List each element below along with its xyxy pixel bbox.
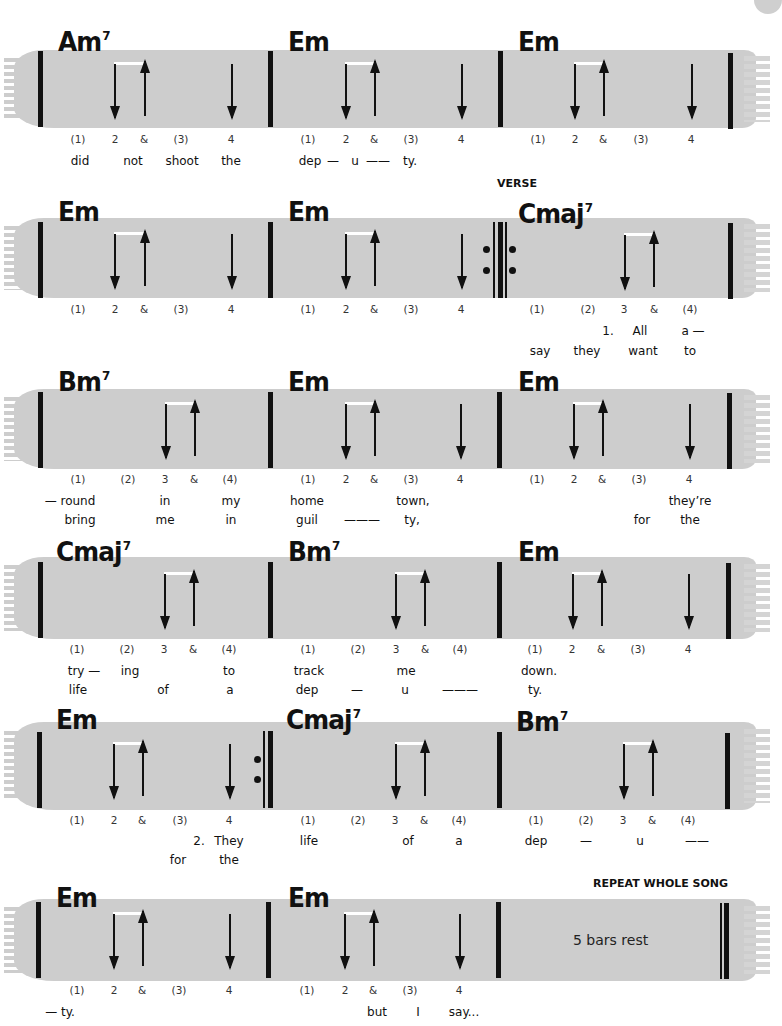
lyric-word: dep — [296, 683, 319, 697]
end-repeat-barline — [268, 731, 273, 808]
up-stroke-arrow-icon — [374, 61, 376, 116]
end-barline — [728, 53, 733, 129]
lyric-word: the — [680, 513, 700, 527]
beat-count: 2 — [569, 643, 576, 655]
staff-band — [14, 389, 756, 469]
down-stroke-arrow-icon — [345, 404, 347, 458]
beat-count: 2 — [343, 473, 350, 485]
down-stroke-arrow-icon — [624, 235, 626, 289]
lyric-word: bring — [64, 513, 95, 527]
down-stroke-arrow-icon — [574, 64, 576, 118]
up-stroke-arrow-icon — [601, 571, 603, 626]
barline — [497, 562, 502, 638]
staff-band — [14, 218, 756, 298]
down-stroke-arrow-icon — [345, 234, 347, 288]
beat-count: 4 — [226, 814, 233, 826]
up-stroke-arrow-icon — [142, 911, 144, 966]
beat-count: 4 — [228, 303, 235, 315]
beat-count: (1) — [301, 473, 316, 485]
rest-instruction: 5 bars rest — [573, 932, 648, 948]
beat-count: 3 — [393, 643, 400, 655]
down-stroke-arrow-icon — [395, 574, 397, 628]
beat-count: (1) — [300, 984, 315, 996]
repeat-dot — [483, 267, 490, 274]
down-stroke-arrow-icon — [460, 404, 462, 458]
chord-symbol: Em — [518, 28, 559, 55]
barline — [268, 392, 273, 468]
beat-count: 4 — [458, 133, 465, 145]
up-stroke-arrow-icon — [194, 401, 196, 456]
beat-count: (1) — [71, 133, 86, 145]
down-stroke-arrow-icon — [623, 744, 625, 798]
repeat-barline — [498, 222, 503, 298]
chord-symbol: Bm7 — [58, 368, 109, 395]
staff-band — [14, 557, 756, 639]
beat-count: (1) — [301, 643, 316, 655]
lyric-word: ty, — [404, 513, 420, 527]
beat-count: & — [138, 984, 146, 996]
beat-count: 3 — [621, 303, 628, 315]
up-stroke-arrow-icon — [653, 232, 655, 287]
barline — [268, 562, 273, 638]
down-stroke-arrow-icon — [461, 64, 463, 118]
lyric-word: u — [636, 834, 644, 848]
lyric-word: — — [351, 683, 363, 697]
lyric-word: want — [628, 344, 657, 358]
lyric-word: a — [226, 683, 233, 697]
section-label-verse: VERSE — [497, 177, 537, 190]
lyric-word: shoot — [165, 154, 198, 168]
beat-count: (1) — [71, 473, 86, 485]
up-stroke-arrow-icon — [602, 401, 604, 456]
chord-symbol: Em — [288, 884, 329, 911]
down-stroke-arrow-icon — [114, 64, 116, 118]
end-repeat-barline — [263, 731, 265, 808]
down-stroke-arrow-icon — [229, 744, 231, 798]
lyric-word: track — [294, 664, 325, 678]
lyric-word: to — [223, 664, 235, 678]
beat-count: 4 — [456, 984, 463, 996]
beat-count: (4) — [453, 643, 468, 655]
down-stroke-arrow-icon — [113, 744, 115, 798]
lyric-word: — — [327, 154, 339, 168]
beat-count: (2) — [120, 643, 135, 655]
beat-count: (1) — [70, 814, 85, 826]
beat-count: & — [138, 814, 146, 826]
lyric-word: u — [351, 154, 359, 168]
lyric-word: They — [214, 834, 243, 848]
beat-count: (2) — [581, 303, 596, 315]
beat-count: 2 — [111, 984, 118, 996]
lyric-word: for — [170, 853, 187, 867]
system-row-1: Am7 Em Em (1) 2 & (3) 4 (1) 2 & (3) 4 (1… — [0, 0, 774, 175]
lyric-word: my — [222, 494, 241, 508]
lyric-word: home — [290, 494, 324, 508]
lyric-word: in — [226, 513, 237, 527]
down-stroke-arrow-icon — [344, 914, 346, 968]
beat-count: 4 — [226, 984, 233, 996]
end-barline — [725, 733, 730, 809]
down-stroke-arrow-icon — [691, 64, 693, 118]
down-stroke-arrow-icon — [164, 574, 166, 628]
chord-symbol: Bm7 — [288, 538, 339, 565]
beat-count: 2 — [342, 984, 349, 996]
beat-count: (3) — [631, 643, 646, 655]
barline — [266, 902, 271, 978]
lyric-word: they’re — [669, 494, 712, 508]
down-stroke-arrow-icon — [229, 914, 231, 968]
beat-count: (4) — [223, 473, 238, 485]
lyric-word: 1. — [602, 324, 613, 338]
barline — [497, 732, 502, 808]
beat-count: (3) — [174, 303, 189, 315]
beat-count: & — [421, 643, 429, 655]
repeat-dot — [254, 776, 261, 783]
lyric-word: life — [300, 834, 318, 848]
staff-band — [14, 722, 756, 810]
beat-count: (1) — [301, 303, 316, 315]
up-stroke-arrow-icon — [374, 401, 376, 456]
beat-count: 2 — [343, 133, 350, 145]
beat-count: (1) — [70, 643, 85, 655]
up-stroke-arrow-icon — [603, 61, 605, 116]
down-stroke-arrow-icon — [114, 234, 116, 288]
beat-count: & — [598, 473, 606, 485]
lyric-word: the — [219, 853, 239, 867]
chord-symbol: Cmaj7 — [518, 200, 592, 227]
